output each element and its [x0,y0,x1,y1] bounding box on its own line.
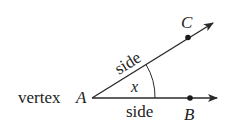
angle-label: x [130,78,138,95]
angle-diagram: vertex A C B x side side [0,0,233,133]
upper-side-label: side [111,48,144,79]
angle-arc [146,65,155,99]
point-a-label: A [75,88,87,107]
point-c-label: C [181,13,193,32]
point-c-dot [185,35,191,41]
ray-ac [92,23,213,98]
lower-side-label: side [126,102,153,121]
vertex-label: vertex [18,88,61,107]
point-b-dot [187,95,193,101]
point-b-label: B [184,105,195,124]
